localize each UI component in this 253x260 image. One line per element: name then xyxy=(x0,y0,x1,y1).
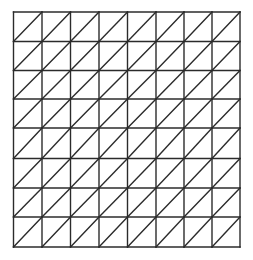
cell-diagonal xyxy=(128,99,157,128)
cell-diagonal xyxy=(184,159,212,189)
cell-diagonal xyxy=(14,71,43,100)
cell-diagonal xyxy=(99,217,128,247)
cell-diagonal xyxy=(71,42,100,71)
cell-diagonal xyxy=(14,42,43,71)
cell-diagonal xyxy=(156,42,184,71)
cell-diagonal xyxy=(42,188,71,217)
cell-diagonal xyxy=(156,128,184,159)
cell-diagonal xyxy=(42,42,71,71)
cell-diagonal xyxy=(42,159,71,189)
cell-diagonal xyxy=(128,188,157,217)
cell-diagonal xyxy=(42,128,71,159)
cell-diagonal xyxy=(99,188,128,217)
cell-diagonal xyxy=(212,159,240,189)
cell-diagonal xyxy=(156,217,184,247)
cell-diagonal xyxy=(212,128,240,159)
cell-diagonal xyxy=(212,12,240,42)
cell-diagonal xyxy=(71,188,100,217)
cell-diagonal xyxy=(71,128,100,159)
cell-diagonal xyxy=(128,42,157,71)
cell-diagonal xyxy=(99,42,128,71)
cell-diagonal xyxy=(14,99,43,128)
cell-diagonal xyxy=(156,12,184,42)
cell-diagonal xyxy=(42,217,71,247)
cell-diagonal xyxy=(184,99,212,128)
cell-diagonal xyxy=(212,71,240,100)
cell-diagonal xyxy=(156,99,184,128)
cell-diagonal xyxy=(71,159,100,189)
cell-diagonal xyxy=(212,188,240,217)
cell-diagonal xyxy=(184,188,212,217)
cell-diagonal xyxy=(128,159,157,189)
cell-diagonal xyxy=(128,128,157,159)
cell-diagonal xyxy=(212,217,240,247)
cell-diagonal xyxy=(184,42,212,71)
cell-diagonal xyxy=(71,99,100,128)
cell-diagonal xyxy=(42,99,71,128)
cell-diagonal xyxy=(14,188,43,217)
cell-diagonal xyxy=(99,99,128,128)
cell-diagonal xyxy=(128,71,157,100)
cell-diagonal xyxy=(71,217,100,247)
cell-diagonal xyxy=(128,217,157,247)
cell-diagonal xyxy=(14,128,43,159)
cell-diagonal xyxy=(71,71,100,100)
cell-diagonal xyxy=(156,188,184,217)
cell-diagonal xyxy=(42,71,71,100)
cell-diagonal xyxy=(184,217,212,247)
cell-diagonal xyxy=(14,159,43,189)
cell-diagonal xyxy=(212,99,240,128)
cell-diagonal xyxy=(99,128,128,159)
cell-diagonal xyxy=(14,12,43,42)
diagonal-lines xyxy=(14,12,241,247)
triangulated-grid-diagram xyxy=(0,0,253,260)
cell-diagonal xyxy=(99,71,128,100)
cell-diagonal xyxy=(212,42,240,71)
cell-diagonal xyxy=(156,71,184,100)
cell-diagonal xyxy=(99,12,128,42)
cell-diagonal xyxy=(184,128,212,159)
cell-diagonal xyxy=(156,159,184,189)
cell-diagonal xyxy=(14,217,43,247)
cell-diagonal xyxy=(184,12,212,42)
cell-diagonal xyxy=(128,12,157,42)
cell-diagonal xyxy=(99,159,128,189)
cell-diagonal xyxy=(42,12,71,42)
cell-diagonal xyxy=(184,71,212,100)
cell-diagonal xyxy=(71,12,100,42)
